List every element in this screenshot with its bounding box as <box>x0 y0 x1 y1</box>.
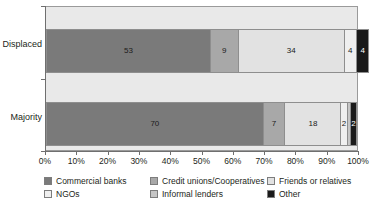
legend-label: Other <box>279 189 300 199</box>
bar-segment: 7 <box>264 102 286 146</box>
bar-segment-value: 70 <box>150 120 159 128</box>
bar-row-majority: 7071822 <box>46 102 357 146</box>
legend-swatch-icon <box>150 190 158 198</box>
x-axis-tick <box>295 151 296 155</box>
legend-item[interactable]: Commercial banks <box>44 174 150 187</box>
legend-item[interactable]: Friends or relatives <box>267 174 374 187</box>
legend-swatch-icon <box>44 177 52 185</box>
bar-segment-value: 4 <box>348 47 352 55</box>
x-axis-tick <box>108 151 109 155</box>
bar-segment-value: 2 <box>351 120 355 128</box>
x-axis-tick-label: 50% <box>193 156 210 166</box>
x-axis-tick-label: 70% <box>256 156 273 166</box>
bar-segment: 53 <box>46 29 211 73</box>
legend-swatch-icon <box>44 190 52 198</box>
bar-segment: 34 <box>239 29 345 73</box>
legend-label: Informal lenders <box>162 189 223 199</box>
bar-segment: 4 <box>357 29 369 73</box>
x-axis-tick-label: 20% <box>99 156 116 166</box>
x-axis-tick-label: 100% <box>347 156 369 166</box>
x-axis-tick-label: 60% <box>224 156 241 166</box>
legend-item[interactable]: Informal lenders <box>150 187 267 200</box>
legend-swatch-icon <box>267 177 275 185</box>
bar-segment-value: 9 <box>222 47 226 55</box>
bar-segment: 18 <box>285 102 341 146</box>
bar-segment: 70 <box>46 102 264 146</box>
x-axis-tick <box>358 151 359 155</box>
bar-segment: 9 <box>211 29 239 73</box>
bar-segment-value: 2 <box>342 120 346 128</box>
y-axis-line <box>45 6 46 151</box>
bar-segment-value: 53 <box>124 47 133 55</box>
x-axis-tick <box>76 151 77 155</box>
y-axis-tick <box>41 6 45 7</box>
bar-row-displaced: 5393444 <box>46 29 357 73</box>
legend-label: Friends or relatives <box>279 176 351 186</box>
legend-item[interactable]: Other <box>267 187 374 200</box>
legend-item[interactable]: Credit unions/Cooperatives <box>150 174 267 187</box>
bar-segment-value: 4 <box>360 47 364 55</box>
x-axis-tick-label: 80% <box>287 156 304 166</box>
legend-label: NGOs <box>56 189 80 199</box>
bar-segment-value: 18 <box>308 120 317 128</box>
x-axis-tick <box>45 151 46 155</box>
x-axis-tick <box>327 151 328 155</box>
legend-label: Commercial banks <box>56 176 126 186</box>
x-axis-tick <box>233 151 234 155</box>
bar-segment: 4 <box>345 29 357 73</box>
bar-segment-value: 34 <box>287 47 296 55</box>
y-axis-tick <box>41 79 45 80</box>
stacked-bar-chart: 5393444 7071822 DisplacedMajority 0%10%2… <box>0 0 383 206</box>
legend-swatch-icon <box>267 190 275 198</box>
legend-label: Credit unions/Cooperatives <box>162 176 265 186</box>
y-axis-label-majority: Majority <box>0 112 42 122</box>
plot-area: 5393444 7071822 <box>45 6 358 151</box>
x-axis-tick-label: 0% <box>39 156 51 166</box>
legend-item[interactable]: NGOs <box>44 187 150 200</box>
x-axis-tick-label: 30% <box>130 156 147 166</box>
x-axis-tick-label: 90% <box>318 156 335 166</box>
x-axis-tick-label: 10% <box>68 156 85 166</box>
x-axis-tick-label: 40% <box>162 156 179 166</box>
bar-segment: 2 <box>351 102 357 146</box>
x-axis-tick <box>139 151 140 155</box>
x-axis-tick <box>170 151 171 155</box>
y-axis-label-displaced: Displaced <box>0 39 42 49</box>
bar-segment-value: 7 <box>272 120 276 128</box>
x-axis-tick <box>202 151 203 155</box>
legend-swatch-icon <box>150 177 158 185</box>
x-axis-tick <box>264 151 265 155</box>
chart-legend: Commercial banksCredit unions/Cooperativ… <box>44 174 374 200</box>
